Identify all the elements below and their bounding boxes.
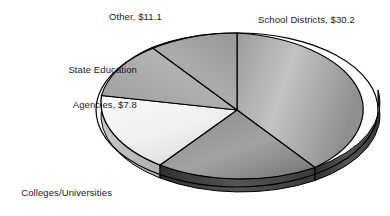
slice-label-school-districts: School Districts, $30.2	[258, 14, 355, 26]
slice-label-colleges-line1: Colleges/Universities	[0, 187, 112, 199]
slice-label-colleges-universities: Colleges/Universities $13.5	[0, 164, 112, 216]
slice-label-sea-line2: Agencies, $7.8	[25, 99, 137, 111]
pie-chart: Other, $11.1 School Districts, $30.2 Sta…	[0, 0, 390, 216]
slice-label-other: Other, $11.1	[109, 11, 162, 23]
slice-label-sea-line1: State Education	[25, 64, 137, 76]
slice-label-state-education-agencies: State Education Agencies, $7.8	[25, 41, 137, 133]
